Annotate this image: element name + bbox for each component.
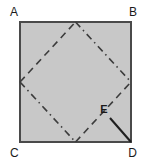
geometry-diagram: A B C D E: [0, 0, 149, 163]
vertex-label-d: D: [128, 146, 137, 160]
vertex-label-c: C: [10, 146, 19, 160]
vertex-label-b: B: [129, 5, 137, 19]
vertex-label-a: A: [10, 5, 18, 19]
geometry-figure: A B C D E: [0, 0, 149, 163]
point-label-e: E: [100, 103, 107, 115]
